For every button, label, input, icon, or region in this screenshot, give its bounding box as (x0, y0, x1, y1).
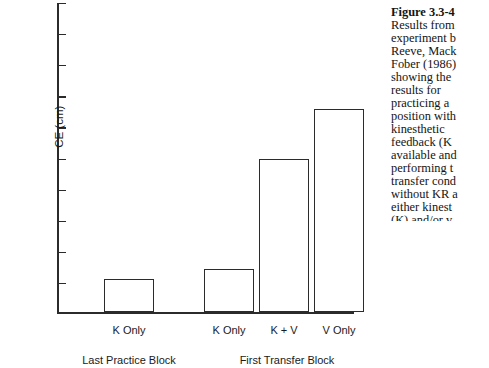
bar-label-last-practice-k-only: K Only (94, 325, 164, 336)
bar-chart-plot-area: 9 8 7 6 5 4 3 2 1 0 -1 K Only K Only K +… (57, 3, 354, 314)
y-tick-7 (59, 65, 66, 66)
x-axis-line (57, 312, 354, 314)
y-tick-8 (59, 34, 66, 35)
bar-last-practice-k-only (104, 279, 154, 312)
bar-transfer-k-plus-v (259, 159, 309, 313)
y-tick-0 (59, 283, 66, 284)
bar-transfer-v-only (314, 109, 364, 313)
bar-transfer-k-only (204, 269, 254, 312)
y-tick-3 (59, 190, 66, 191)
y-tick-9 (59, 3, 66, 4)
y-axis-title: CE (cm) (54, 82, 66, 172)
figure-caption: Figure 3.3-4 Results from experiment b R… (391, 6, 489, 221)
y-tick-2 (59, 221, 66, 222)
figure-caption-body: Results from experiment b Reeve, Mack Fo… (391, 19, 489, 221)
y-tick-1 (59, 252, 66, 253)
figure-chart: 9 8 7 6 5 4 3 2 1 0 -1 K Only K Only K +… (0, 0, 360, 368)
bar-label-transfer-v-only: V Only (304, 325, 374, 336)
group-label-first-transfer-block: First Transfer Block (222, 355, 352, 366)
group-label-last-practice-block: Last Practice Block (69, 355, 189, 366)
